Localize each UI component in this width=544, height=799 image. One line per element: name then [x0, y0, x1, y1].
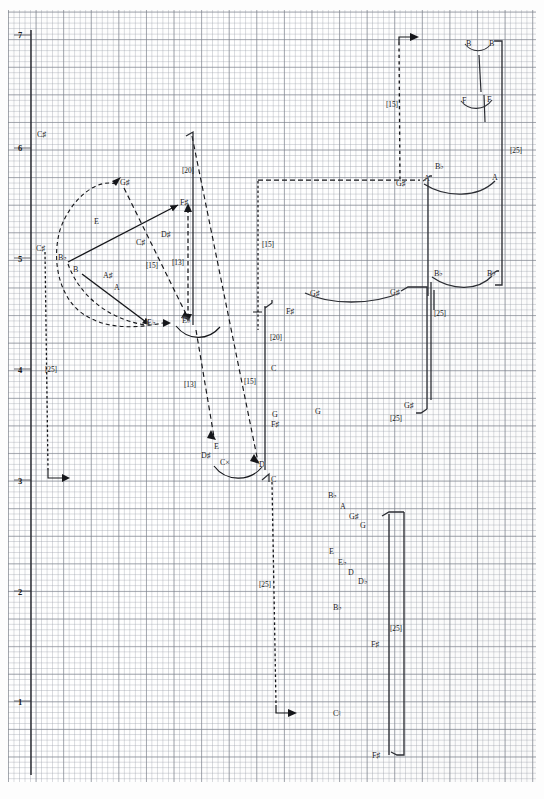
note-label-C-n01: C♯ — [37, 131, 46, 139]
note-label-E-n41: E — [329, 548, 334, 556]
note-label-A-n30: A — [492, 174, 498, 182]
interval-bracket-25-b13: [25] — [259, 581, 271, 589]
note-label-E-n42: E♭ — [338, 559, 347, 567]
note-label-B-n37: B♭ — [328, 492, 337, 500]
interval-bracket-25-b04: [25] — [45, 366, 57, 374]
middle-dotted-frame — [253, 180, 420, 330]
note-label-B-n31: B♭ — [434, 270, 443, 278]
interval-25-right-bracket — [494, 41, 502, 285]
note-label-F-n35: F — [462, 97, 466, 105]
note-label-B-n34: B — [489, 40, 494, 48]
note-label-G-n27: G♯ — [396, 180, 406, 188]
left-cluster-dashed-arrowheads — [112, 177, 171, 327]
note-label-G-n25: G♯ — [390, 289, 400, 297]
octave-tick-3: 3 — [18, 477, 22, 485]
note-label-C-n18: C — [271, 476, 276, 484]
note-label-B-n32: B♭ — [487, 270, 496, 278]
note-label-F-n19: F♯ — [286, 308, 294, 316]
note-label-G-n40: G — [360, 522, 366, 530]
note-label-G-n39: G♯ — [349, 513, 359, 521]
note-label-F-n22: F♯ — [271, 421, 279, 429]
octave-tick-2: 2 — [18, 588, 22, 596]
note-label-C-n20: C — [271, 365, 276, 373]
note-label-F-n36: F — [487, 96, 491, 104]
note-label-B-n09: B — [73, 266, 78, 274]
octave-tick-1: 1 — [18, 698, 22, 706]
note-label-E-n12: E♭ — [147, 319, 156, 327]
note-label-C-n05: C♯ — [36, 245, 45, 253]
interval-bracket-20-b08: [20] — [270, 334, 282, 342]
octave-tick-5: 5 — [18, 255, 22, 263]
interval-bracket-13-b05: [13] — [184, 381, 196, 389]
interval-bracket-25-b10: [25] — [510, 147, 522, 155]
note-label-G-n26: G♯ — [404, 402, 414, 410]
note-label-A-n38: A — [340, 503, 346, 511]
interval-25-lower-staples — [382, 512, 404, 755]
note-label-C-n47: C♮ — [333, 710, 341, 718]
gsharp-pair-group — [305, 287, 427, 413]
octave-tick-4: 4 — [18, 366, 22, 374]
interval-bracket-15-b09: [15] — [386, 101, 398, 109]
note-label-C-n06: C♯ — [136, 239, 145, 247]
note-label-B-n45: B♭ — [333, 604, 342, 612]
octave-tick-6: 6 — [18, 144, 22, 152]
vertical-axis — [14, 30, 31, 775]
interval-bracket-15-b07: [15] — [262, 241, 274, 249]
note-label-D-n44: D♭ — [358, 578, 368, 586]
note-label-G-n23: G — [315, 408, 321, 416]
b-pair-group — [465, 44, 491, 92]
slur-cx-d-pair — [214, 466, 262, 478]
interval-bracket-15-b06: [15] — [244, 378, 256, 386]
note-label-B-n33: B — [466, 40, 471, 48]
note-label-A-n28: A — [424, 175, 430, 183]
note-label-E-n13: E♭ — [182, 317, 191, 325]
note-label-D-n17: D — [259, 461, 265, 469]
note-label-B-n29: B♭ — [435, 163, 444, 171]
interval-13-dashed-up-arrow — [184, 203, 192, 322]
interval-bracket-25-b12: [25] — [390, 415, 402, 423]
interval-bracket-15-b02: [15] — [146, 262, 158, 270]
interval-bracket-25-b14: [25] — [390, 625, 402, 633]
note-label-G-n24: G♯ — [310, 290, 320, 298]
interval-15-dotted-vertical — [399, 33, 419, 182]
note-label-F-n48: F♯ — [372, 752, 380, 760]
interval-bracket-20-b01: [20] — [182, 167, 194, 175]
diagram-vector-layer — [0, 0, 544, 799]
note-label-D-n15: D♯ — [201, 452, 211, 460]
interval-bracket-25-b11: [25] — [434, 310, 446, 318]
note-label-C-n16: C× — [220, 459, 230, 467]
interval-20-vertical-middle — [265, 300, 272, 470]
note-label-E-n04: E — [94, 218, 99, 226]
figure-page: 7654321C♯G♯F♯EC♯C♯D♯B♭BA♯AE♭E♭ED♯C×DCF♯C… — [0, 0, 544, 799]
left-cluster-dashed-contour — [57, 183, 168, 327]
note-label-E-n14: E — [214, 443, 219, 451]
note-label-G-n02: G♯ — [120, 179, 130, 187]
note-label-B-n08: B♭ — [58, 254, 67, 262]
note-label-A-n11: A — [114, 284, 120, 292]
lower-dotted-line-with-arrow — [262, 474, 297, 717]
octave-tick-7: 7 — [18, 31, 22, 39]
cluster-dashed-diagonals — [124, 136, 258, 462]
note-label-A-n10: A♯ — [103, 272, 113, 280]
note-label-F-n46: F♯ — [371, 641, 379, 649]
slur-eflat-pair — [176, 326, 220, 337]
note-label-G-n21: G — [272, 411, 278, 419]
note-label-D-n07: D♯ — [161, 231, 171, 239]
interval-bracket-13-b03: [13] — [172, 259, 184, 267]
interval-20-vertical-left — [186, 132, 193, 325]
note-label-D-n43: D — [348, 569, 354, 577]
note-label-F-n03: F♯ — [180, 199, 188, 207]
